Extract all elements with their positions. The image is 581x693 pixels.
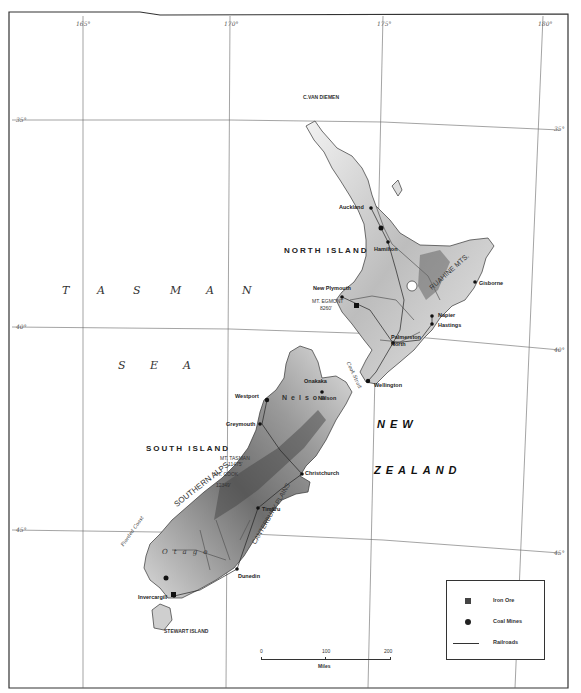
city-auckland: Auckland [339,204,364,210]
sea-letter: N [242,284,252,297]
otago-label: Otago [162,548,213,556]
country-label-line1: NEW [377,418,418,430]
scale-tick-0: 0 [260,648,263,654]
lat-tick-45-left: 45° [16,526,27,533]
sea-letter: E [150,359,158,372]
north-island-label: NORTH ISLAND [284,246,368,255]
lon-tick-165: 165° [76,20,90,27]
city-new-plymouth: New Plymouth [313,285,351,291]
city-nelson: Nelson [318,395,336,401]
mt-cook-height: 12349' [216,482,231,488]
city-palmerston-north: Palmerston North [391,334,431,348]
city-napier: Napier [438,312,455,318]
city-christchurch: Christchurch [305,470,339,476]
mt-egmont-height: 8260' [320,305,332,311]
map-legend: Iron Ore Coal Mines Railroads [446,580,545,660]
cape-label: C.VAN DIEMEN [303,94,339,100]
sea-letter: M [170,284,181,297]
lat-tick-35-right: 35° [554,125,565,132]
city-wellington: Wellington [374,382,402,388]
city-hastings: Hastings [438,322,461,328]
city-gisborne: Gisborne [479,280,503,286]
city-invercargill: Invercargill [138,594,167,600]
city-dunedin: Dunedin [238,573,260,579]
scale-mid-tick [325,657,326,660]
sea-letter: A [183,359,191,372]
south-island-label: SOUTH ISLAND [146,444,230,453]
sea-letter: S [133,284,141,297]
city-hamilton: Hamilton [374,246,398,252]
scale-line [261,657,391,660]
stewart-island-label: STEWART ISLAND [164,628,208,634]
legend-item-coal-mines: Coal Mines [447,616,544,630]
city-timaru: Timaru [262,506,280,512]
scale-unit: Miles [318,663,331,669]
sea-letter: S [118,359,126,372]
lat-tick-40-left: 40° [16,323,27,330]
sea-letter: A [206,284,214,297]
sea-letter: T [62,284,69,297]
city-onakaka: Onakaka [304,378,327,384]
lon-tick-170: 170° [224,20,238,27]
stewart-island [152,604,172,630]
circle-icon [465,619,471,625]
scale-tick-200: 200 [384,648,392,654]
south-island [144,346,352,630]
lon-tick-175: 175° [377,20,391,27]
city-westport: Westport [235,393,259,399]
lat-tick-35-left: 35° [16,116,27,123]
railroad-icon [453,643,479,644]
city-greymouth: Greymouth [226,421,255,427]
country-label-line2: ZEALAND [374,464,462,476]
sea-letter: A [97,284,105,297]
lat-tick-40-right: 40° [554,346,565,353]
scale-tick-100: 100 [322,648,330,654]
mt-egmont-label: MT. EGMONT [312,298,343,304]
lon-tick-180: 180° [538,20,552,27]
square-icon [465,598,471,604]
lat-tick-45-right: 45° [554,549,565,556]
legend-item-iron-ore: Iron Ore [447,595,544,609]
scale-bar: 0 100 200 Miles [260,650,390,680]
legend-item-railroads: Railroads [447,637,544,651]
